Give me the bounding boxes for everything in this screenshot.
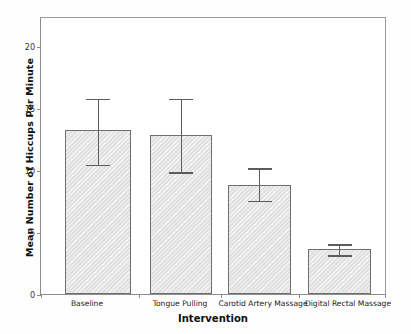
x-tick-mark <box>299 294 300 298</box>
bar-chart: Mean Number of Hiccups Per Minute 20 15 … <box>0 0 411 334</box>
errorbar-cap-upper <box>328 244 352 246</box>
x-tick-mark <box>139 294 140 298</box>
errorbar-stem <box>98 100 99 166</box>
x-axis-title: Intervention <box>40 313 386 324</box>
plot-area: 20 15 10 5 0 <box>40 17 386 295</box>
y-tick-mark <box>37 47 41 48</box>
y-tick-label: 10 <box>25 166 35 177</box>
errorbar-stem <box>259 169 260 201</box>
y-tick-label: 5 <box>30 228 35 239</box>
x-tick-mark <box>41 294 42 298</box>
errorbar-stem <box>181 100 182 173</box>
y-tick-mark <box>37 233 41 234</box>
errorbar-cap-lower <box>86 165 110 167</box>
y-tick-label: 20 <box>25 42 35 53</box>
errorbar-cap-upper <box>86 99 110 101</box>
y-tick-mark <box>37 109 41 110</box>
errorbar-cap-lower <box>169 172 193 174</box>
y-tick-label: 0 <box>30 290 35 301</box>
errorbar-cap-upper <box>248 168 272 170</box>
x-tick-mark <box>385 294 386 298</box>
x-tick-mark <box>221 294 222 298</box>
x-label-digital-rectal-massage: Digital Rectal Massage <box>288 299 408 309</box>
x-label-baseline: Baseline <box>37 299 137 309</box>
errorbar-cap-lower <box>328 255 352 257</box>
y-tick-mark <box>37 171 41 172</box>
errorbar-cap-lower <box>248 201 272 203</box>
y-axis-title: Mean Number of Hiccups Per Minute <box>24 33 35 283</box>
errorbar-cap-upper <box>169 99 193 101</box>
y-tick-label: 15 <box>25 104 35 115</box>
